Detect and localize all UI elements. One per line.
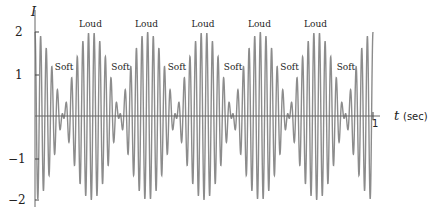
loud-label: Loud xyxy=(304,19,327,29)
x-axis-var: t xyxy=(394,108,400,123)
y-axis-label: I xyxy=(30,4,37,19)
loud-label: Loud xyxy=(135,19,158,29)
y-tick-label-m1: −1 xyxy=(8,152,26,166)
loud-label: Loud xyxy=(79,19,102,29)
soft-label: Soft xyxy=(224,62,243,72)
soft-label: Soft xyxy=(280,62,299,72)
loud-label: Loud xyxy=(192,19,215,29)
y-tick-label-m2: −2 xyxy=(8,193,26,207)
soft-label: Soft xyxy=(168,62,187,72)
x-axis-unit: (sec) xyxy=(403,111,428,122)
loud-label: Loud xyxy=(248,19,271,29)
y-tick-label-2: 2 xyxy=(15,25,23,39)
beats-chart: I 2 1 −1 −2 1 t (sec) LoudLoudLoudLoudLo… xyxy=(0,0,435,218)
x-tick-label-1: 1 xyxy=(372,118,378,129)
y-tick-label-1: 1 xyxy=(15,68,23,82)
soft-label: Soft xyxy=(337,62,356,72)
soft-label: Soft xyxy=(55,62,74,72)
soft-label: Soft xyxy=(111,62,130,72)
